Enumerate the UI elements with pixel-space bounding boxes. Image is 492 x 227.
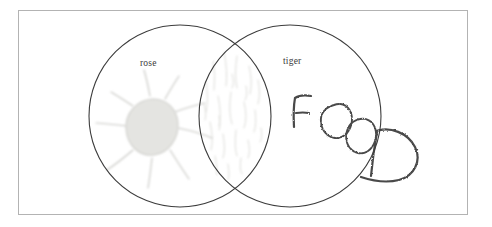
handwritten-food-sketch — [294, 95, 418, 181]
venn-circle-rose — [89, 25, 271, 207]
flower-blob-sketch — [96, 70, 212, 188]
venn-label-rose: rose — [140, 58, 157, 68]
lens-hatching-group — [204, 52, 262, 180]
venn-label-tiger: tiger — [283, 56, 301, 66]
venn-circle-tiger — [199, 25, 381, 207]
screenshot-canvas: rose tiger — [0, 0, 492, 227]
venn-diagram-artwork — [0, 0, 492, 227]
